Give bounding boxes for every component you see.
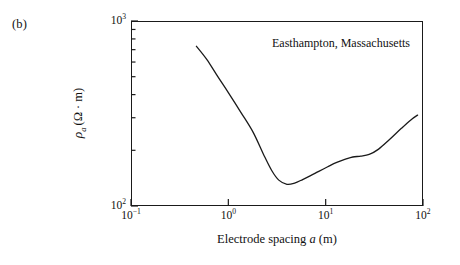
y-tick-label-1000: 103 bbox=[100, 15, 126, 27]
site-annotation: Easthampton, Massachusetts bbox=[272, 36, 410, 51]
x-axis-title: Electrode spacing a (m) bbox=[217, 232, 337, 247]
x-tick-label-100: 102 bbox=[415, 210, 430, 222]
figure-panel: (b) 103 102 10−1 100 101 102 Electrode s… bbox=[0, 0, 460, 265]
panel-label: (b) bbox=[12, 18, 27, 31]
y-axis-title: ρa(Ω · m) bbox=[70, 88, 86, 139]
x-tick-label-0.1: 10−1 bbox=[121, 210, 141, 222]
x-tick-label-1: 100 bbox=[221, 210, 236, 222]
x-tick-label-10: 101 bbox=[318, 210, 333, 222]
